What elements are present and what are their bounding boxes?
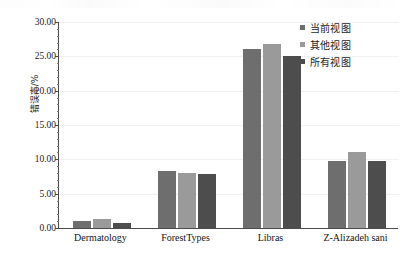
- y-axis-minor-tick: [57, 214, 60, 215]
- square-marker-icon: [300, 42, 305, 47]
- bar: [198, 174, 216, 228]
- y-axis-minor-tick: [57, 111, 60, 112]
- y-axis-minor-tick: [57, 70, 60, 71]
- y-axis-minor-tick: [57, 84, 60, 85]
- x-axis-tick-labels: DermatologyForestTypesLibrasZ-Alizadeh s…: [58, 232, 398, 252]
- bar-chart: 错误率/% 0.005.0010.0015.0020.0025.0030.00 …: [0, 0, 405, 261]
- y-axis-minor-tick: [57, 63, 60, 64]
- x-axis-baseline: [58, 228, 398, 229]
- square-marker-icon: [300, 25, 305, 30]
- bar: [158, 171, 176, 228]
- bar: [178, 173, 196, 228]
- y-axis-tick-labels: 0.005.0010.0015.0020.0025.0030.00: [20, 0, 56, 261]
- legend-item: 所有视图: [300, 54, 400, 68]
- y-axis-minor-tick: [57, 139, 60, 140]
- y-axis-minor-tick: [57, 173, 60, 174]
- y-axis-minor-tick: [57, 36, 60, 37]
- y-axis-minor-tick: [57, 180, 60, 181]
- y-axis-tick-label: 10.00: [22, 154, 56, 164]
- y-axis-tick-label: 30.00: [22, 17, 56, 27]
- bar: [73, 221, 91, 228]
- y-axis-minor-tick: [57, 201, 60, 202]
- y-axis-minor-tick: [57, 221, 60, 222]
- bar-group: [73, 22, 131, 228]
- y-axis-minor-tick: [57, 98, 60, 99]
- y-axis-minor-tick: [57, 132, 60, 133]
- y-axis-minor-tick: [57, 29, 60, 30]
- bar: [263, 44, 281, 228]
- y-axis-tick-label: 25.00: [22, 51, 56, 61]
- bar-group: [158, 22, 216, 228]
- scan-noise-artifact: [0, 0, 405, 8]
- y-axis-minor-tick: [57, 77, 60, 78]
- y-axis-minor-tick: [57, 49, 60, 50]
- y-axis-tick-label: 5.00: [22, 189, 56, 199]
- bar: [328, 161, 346, 228]
- y-axis-minor-tick: [57, 166, 60, 167]
- bar: [243, 49, 261, 228]
- y-axis-minor-tick: [57, 146, 60, 147]
- bar-group: [243, 22, 301, 228]
- x-axis-tick-label: Libras: [228, 232, 313, 243]
- chart-legend: 当前视图其他视图所有视图: [300, 20, 400, 71]
- square-marker-icon: [300, 59, 305, 64]
- legend-item-label: 其他视图: [310, 37, 351, 52]
- y-axis-major-tick: [55, 159, 59, 160]
- y-axis-major-tick: [55, 56, 59, 57]
- y-axis-major-tick: [55, 125, 59, 126]
- x-axis-tick-label: Z-Alizadeh sani: [313, 232, 398, 243]
- x-axis-tick-label: Dermatology: [58, 232, 143, 243]
- bar: [283, 56, 301, 228]
- bar: [348, 152, 366, 228]
- legend-item-label: 当前视图: [310, 20, 351, 35]
- y-axis-major-tick: [55, 22, 59, 23]
- y-axis-minor-tick: [57, 104, 60, 105]
- y-axis-minor-tick: [57, 118, 60, 119]
- x-axis-tick-label: ForestTypes: [143, 232, 228, 243]
- y-axis-major-tick: [55, 194, 59, 195]
- legend-item-label: 所有视图: [310, 54, 351, 69]
- legend-item: 当前视图: [300, 20, 400, 34]
- y-axis-minor-tick: [57, 207, 60, 208]
- y-axis-tick-label: 15.00: [22, 120, 56, 130]
- bar: [93, 219, 111, 228]
- y-axis-minor-tick: [57, 152, 60, 153]
- y-axis-minor-tick: [57, 43, 60, 44]
- y-axis-tick-label: 20.00: [22, 86, 56, 96]
- y-axis-major-tick: [55, 91, 59, 92]
- y-axis-tick-label: 0.00: [22, 223, 56, 233]
- y-axis-minor-tick: [57, 187, 60, 188]
- bar: [368, 161, 386, 228]
- legend-item: 其他视图: [300, 37, 400, 51]
